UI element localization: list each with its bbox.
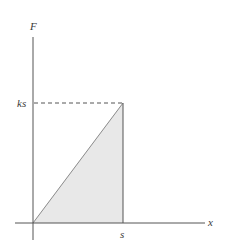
x-axis-label: x (207, 216, 213, 228)
y-axis-label: F (29, 20, 37, 32)
force-displacement-diagram: F ks s x (0, 0, 226, 249)
ks-label: ks (17, 97, 26, 109)
s-label: s (120, 228, 124, 240)
